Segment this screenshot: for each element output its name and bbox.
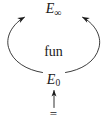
math-diagram: E∞ fun E0 = — [0, 0, 107, 121]
node-equals-symbol: = — [0, 107, 107, 120]
node-e-zero: E0 — [0, 73, 107, 89]
edge-label-fun: fun — [0, 45, 107, 59]
node-e-infinity-base: E — [46, 1, 55, 16]
diagram-canvas — [0, 0, 107, 121]
node-e-infinity-subscript: ∞ — [54, 7, 61, 18]
node-e-infinity: E∞ — [0, 2, 107, 18]
node-e-zero-subscript: 0 — [55, 78, 60, 88]
